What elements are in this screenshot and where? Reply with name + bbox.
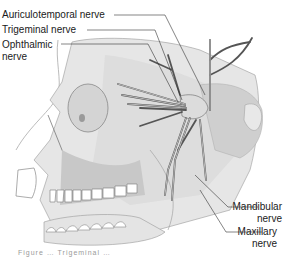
label-ophthalmic-nerve-line1: Ophthalmic: [2, 39, 53, 50]
figure-caption: Figure … Trigeminal …: [18, 249, 111, 256]
label-mandibular-nerve-line1: Mandibular: [226, 201, 282, 212]
label-maxillary-nerve-line2: nerve: [226, 238, 277, 249]
label-trigeminal-nerve: Trigeminal nerve: [2, 24, 76, 35]
upper-lip: [16, 168, 36, 198]
label-mandibular-nerve-line2: nerve: [226, 213, 282, 224]
label-auriculotemporal-nerve: Auriculotemporal nerve: [2, 9, 105, 20]
eye-orbit: [68, 84, 108, 132]
trigeminal-nerve-diagram: Auriculotemporal nerve Trigeminal nerve …: [0, 0, 284, 258]
optic-foramen: [79, 114, 85, 122]
label-ophthalmic-nerve-line2: nerve: [2, 51, 27, 62]
label-maxillary-nerve-line1: Maxillary: [226, 226, 277, 237]
